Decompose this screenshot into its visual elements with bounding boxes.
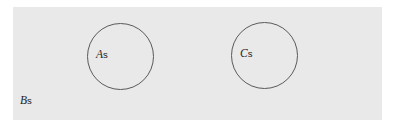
set-a-subscript: s — [103, 49, 108, 60]
set-diagram: As Cs Bs — [0, 0, 396, 128]
set-label-b: Bs — [20, 95, 32, 107]
set-a-symbol: A — [96, 48, 103, 60]
set-b-symbol: B — [20, 94, 27, 106]
set-c-symbol: C — [240, 47, 248, 59]
set-c-subscript: s — [248, 48, 253, 59]
set-label-a: As — [96, 49, 108, 61]
set-label-c: Cs — [240, 48, 252, 60]
universe-region-b — [13, 7, 382, 120]
set-b-subscript: s — [27, 95, 32, 106]
